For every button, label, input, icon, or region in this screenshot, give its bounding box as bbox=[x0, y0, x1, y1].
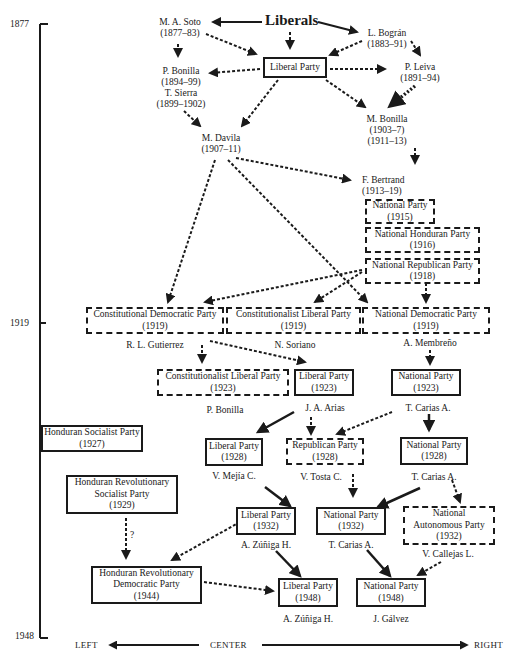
party-year: (1948) bbox=[378, 593, 403, 605]
leader-pbonilla: P. Bonilla bbox=[195, 405, 255, 416]
node-mbonilla: M. Bonilla (1903–7) (1911–13) bbox=[357, 114, 417, 147]
party-name: Honduran Revolutionary bbox=[75, 477, 170, 489]
leader-carias-1928: T. Carias A. bbox=[400, 472, 468, 483]
party-year: (1928) bbox=[421, 451, 446, 463]
uncertain-link-mark: ? bbox=[130, 530, 134, 541]
node-bertrand: F. Bertrand (1913–19) bbox=[362, 175, 412, 197]
party-name: Constitutionalist Liberal Party bbox=[236, 309, 351, 321]
party-name: Socialist Party bbox=[94, 489, 149, 501]
node-bogran: L. Bográn (1883–91) bbox=[357, 28, 417, 50]
leader-name: P. Bonilla bbox=[152, 66, 210, 77]
axis-center-label: CENTER bbox=[210, 640, 247, 650]
node-constitutional-democratic-party-1919: Constitutional Democratic Party (1919) bbox=[86, 307, 224, 334]
party-name: National Party bbox=[398, 371, 453, 383]
node-liberal-party-1948: Liberal Party (1948) bbox=[278, 578, 338, 607]
node-national-party-1923: National Party (1923) bbox=[391, 369, 461, 396]
year-1948: 1948 bbox=[15, 631, 34, 641]
leader-name: L. Bográn bbox=[357, 28, 417, 39]
leader-zuniga-1932: A. Zúñiga H. bbox=[235, 540, 297, 551]
party-year: (1932) bbox=[436, 531, 461, 543]
year-1919: 1919 bbox=[10, 318, 29, 328]
node-republican-party-1928: Republican Party (1928) bbox=[286, 438, 364, 465]
node-national-party-1932: National Party (1932) bbox=[316, 507, 386, 535]
party-name: National Democratic Party bbox=[375, 309, 477, 321]
leader-name: T. Sierra bbox=[152, 88, 210, 99]
leader-mejia: V. Mejía C. bbox=[205, 471, 263, 482]
leader-years: (1877–83) bbox=[150, 28, 210, 39]
leader-callejas: V. Callejas L. bbox=[408, 549, 488, 560]
leader-name: M. Davila bbox=[196, 133, 246, 144]
party-year: (1932) bbox=[338, 521, 363, 533]
party-name: Republican Party bbox=[292, 440, 358, 452]
leader-name: M. Bonilla bbox=[357, 114, 417, 125]
leader-tosta: V. Tosta C. bbox=[292, 472, 350, 483]
node-national-party-1948: National Party (1948) bbox=[356, 578, 426, 607]
party-name: Liberal Party bbox=[299, 371, 349, 383]
leader-name: P. Leiva bbox=[392, 62, 448, 73]
party-year: (1928) bbox=[221, 452, 246, 464]
liberals-title: Liberals bbox=[265, 12, 318, 29]
node-liberal-party: Liberal Party bbox=[263, 57, 327, 78]
party-year: (1916) bbox=[410, 240, 435, 252]
party-name: National Party bbox=[406, 440, 461, 452]
party-year: (1915) bbox=[387, 212, 412, 224]
node-national-democratic-party-1919: National Democratic Party (1919) bbox=[362, 307, 490, 334]
leader-arias: J. A. Arias bbox=[295, 403, 355, 414]
node-national-honduran-party-1916: National Honduran Party (1916) bbox=[365, 227, 480, 253]
node-national-republican-party-1918: National Republican Party (1918) bbox=[365, 258, 480, 284]
node-constitutionalist-liberal-party-1923: Constitutionalist Liberal Party (1923) bbox=[157, 369, 289, 396]
party-year: (1929) bbox=[109, 500, 134, 512]
party-year: (1923) bbox=[311, 383, 336, 395]
leader-galvez: J. Gálvez bbox=[362, 614, 420, 625]
node-pbonilla-sierra: P. Bonilla (1894–99) T. Sierra (1899–190… bbox=[152, 66, 210, 110]
node-liberal-party-1923: Liberal Party (1923) bbox=[294, 369, 354, 396]
party-name: National bbox=[433, 508, 466, 520]
leader-gutierrez: R. L. Gutierrez bbox=[110, 340, 200, 351]
party-year: (1923) bbox=[210, 383, 235, 395]
node-liberal-party-1928: Liberal Party (1928) bbox=[205, 438, 263, 466]
party-year: (1928) bbox=[312, 452, 337, 464]
node-honduran-revolutionary-democratic-party-1944: Honduran Revolutionary Democratic Party … bbox=[91, 566, 202, 604]
node-national-party-1928: National Party (1928) bbox=[400, 437, 468, 465]
year-1877: 1877 bbox=[10, 19, 29, 29]
party-year: (1918) bbox=[410, 271, 435, 283]
party-name: National Honduran Party bbox=[375, 229, 471, 241]
node-constitutionalist-liberal-party-1919: Constitutionalist Liberal Party (1919) bbox=[226, 307, 361, 334]
node-leiva: P. Leiva (1891–94) bbox=[392, 62, 448, 84]
party-name: Constitutional Democratic Party bbox=[94, 309, 217, 321]
party-name: Constitutionalist Liberal Party bbox=[165, 371, 280, 383]
leader-years: (1899–1902) bbox=[152, 99, 210, 110]
party-name: National Republican Party bbox=[372, 260, 473, 272]
leader-zuniga-1948: A. Zúñiga H. bbox=[277, 614, 339, 625]
party-name: Liberal Party bbox=[209, 441, 259, 453]
party-year: (1948) bbox=[295, 593, 320, 605]
axis-right-label: RIGHT bbox=[474, 640, 503, 650]
party-year: (1919) bbox=[142, 321, 167, 333]
node-honduran-revolutionary-socialist-party-1929: Honduran Revolutionary Socialist Party (… bbox=[66, 475, 178, 514]
party-name: Honduran Socialist Party bbox=[44, 427, 140, 439]
leader-carias-1932: T. Carias A. bbox=[318, 540, 384, 551]
leader-membreno: A. Membreño bbox=[395, 338, 465, 349]
leader-soriano: N. Soriano bbox=[255, 340, 335, 351]
leader-years: (1891–94) bbox=[392, 73, 448, 84]
leader-name: M. A. Soto bbox=[150, 17, 210, 28]
leader-years: (1913–19) bbox=[362, 186, 412, 197]
party-name: Liberal Party bbox=[241, 510, 291, 522]
leader-years: (1903–7) bbox=[357, 125, 417, 136]
node-liberal-party-1932: Liberal Party (1932) bbox=[236, 507, 296, 535]
node-davila: M. Davila (1907–11) bbox=[196, 133, 246, 155]
party-name: National Party bbox=[372, 200, 427, 212]
leader-years: (1883–91) bbox=[357, 39, 417, 50]
party-year: (1927) bbox=[79, 439, 104, 451]
party-year: (1919) bbox=[281, 321, 306, 333]
node-national-party-1915: National Party (1915) bbox=[365, 199, 435, 224]
party-year: (1919) bbox=[413, 321, 438, 333]
node-soto: M. A. Soto (1877–83) bbox=[150, 17, 210, 39]
leader-years: (1894–99) bbox=[152, 77, 210, 88]
party-name: Honduran Revolutionary bbox=[99, 568, 194, 580]
leader-name: F. Bertrand bbox=[362, 175, 412, 186]
party-name: Liberal Party bbox=[270, 62, 320, 74]
party-name: National Party bbox=[363, 581, 418, 593]
party-year: (1944) bbox=[134, 591, 159, 603]
node-honduran-socialist-party-1927: Honduran Socialist Party (1927) bbox=[41, 425, 143, 452]
